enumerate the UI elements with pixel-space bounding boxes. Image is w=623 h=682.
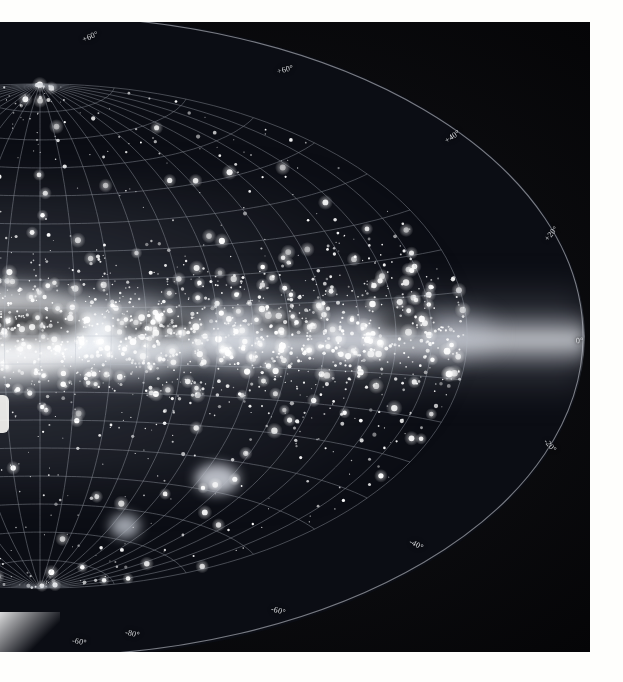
star-point (234, 363, 236, 365)
star-point (84, 376, 88, 380)
star-point (125, 358, 128, 361)
star-point (442, 379, 444, 381)
star-point (17, 362, 19, 364)
star-point (43, 494, 45, 496)
star-point (45, 218, 47, 220)
star-point (1, 344, 4, 347)
star-point (166, 278, 168, 280)
star-point (348, 286, 350, 288)
star-point (115, 265, 116, 266)
star-point (234, 163, 237, 166)
star-point (217, 284, 219, 286)
star-point (419, 364, 422, 367)
star-halo (368, 378, 384, 394)
star-point (227, 529, 230, 532)
star-point (325, 290, 327, 292)
coordinate-graticule (0, 22, 585, 652)
star-point (337, 232, 340, 235)
star-point (301, 317, 303, 319)
star-point (434, 404, 438, 408)
star-point (349, 474, 350, 475)
star-point (192, 330, 196, 334)
star-point (366, 292, 368, 294)
star-point (291, 290, 292, 291)
star-point (336, 242, 337, 243)
star-halo (163, 174, 176, 187)
star-point (448, 358, 450, 360)
star-point (409, 229, 410, 230)
star-point (161, 291, 162, 292)
star-point (287, 160, 288, 161)
star-point (130, 339, 132, 341)
star-point (309, 309, 311, 311)
star-point (291, 380, 293, 382)
star-point (325, 294, 326, 295)
star-point (144, 345, 146, 347)
star-point (265, 390, 267, 392)
star-point (30, 262, 32, 264)
star-point (98, 434, 101, 437)
star-point (416, 324, 418, 326)
sky-ellipse (0, 22, 585, 652)
star-point (178, 397, 181, 400)
star-halo (75, 336, 89, 350)
star-point (252, 523, 254, 525)
star-point (143, 207, 144, 208)
star-point (239, 286, 241, 288)
star-point (125, 287, 127, 289)
star-point (132, 394, 133, 395)
star-point (453, 330, 455, 332)
star-point (342, 333, 344, 335)
star-point (439, 382, 442, 385)
star-point (103, 316, 106, 319)
star-point (387, 405, 389, 407)
star-point (272, 359, 275, 362)
star-point (170, 498, 171, 499)
star-halo (402, 304, 415, 317)
star-point (106, 311, 108, 313)
star-point (399, 314, 402, 317)
star-halo (279, 404, 290, 415)
star-point (332, 400, 335, 403)
star-point (307, 310, 309, 312)
star-point (371, 286, 372, 287)
star-point (15, 415, 17, 417)
star-halo (188, 174, 202, 188)
star-point (364, 283, 366, 285)
star-point (237, 363, 239, 365)
star-point (181, 287, 184, 290)
star-point (383, 263, 386, 266)
star-point (103, 289, 105, 291)
star-point (35, 338, 37, 340)
star-point (342, 303, 344, 305)
star-halo (425, 408, 437, 420)
star-halo (405, 246, 418, 259)
star-point (119, 300, 120, 301)
star-point (123, 420, 124, 421)
star-point (61, 341, 63, 343)
star-point (50, 320, 52, 322)
star-point (115, 358, 117, 360)
star-point (13, 371, 15, 373)
star-point (189, 402, 191, 404)
star-halo (65, 300, 79, 314)
star-halo (33, 169, 45, 181)
star-point (48, 424, 50, 426)
star-point (202, 285, 204, 287)
star-point (272, 275, 275, 278)
star-point (38, 436, 39, 437)
star-halo (217, 342, 229, 354)
star-point (172, 354, 175, 357)
star-point (114, 561, 116, 563)
plate-corner-fade (0, 612, 60, 652)
star-point (34, 295, 36, 297)
star-point (37, 132, 38, 133)
star-point (25, 527, 26, 528)
star-point (232, 307, 234, 309)
star-point (249, 438, 252, 441)
star-point (256, 331, 259, 334)
star-point (188, 297, 190, 299)
star-point (201, 308, 203, 310)
star-halo (44, 565, 60, 581)
star-point (130, 298, 132, 300)
